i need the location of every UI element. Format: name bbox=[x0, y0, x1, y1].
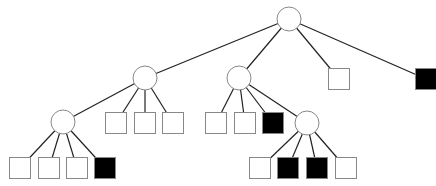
filled-square-node-A1d bbox=[95, 158, 116, 179]
filled-square-node-B4b bbox=[278, 158, 299, 179]
empty-square-node-B2 bbox=[235, 113, 256, 134]
empty-square-node-A1b bbox=[39, 158, 60, 179]
diagram-background bbox=[0, 0, 436, 186]
circle-node-root bbox=[277, 7, 301, 31]
empty-square-node-B4a bbox=[250, 158, 271, 179]
filled-square-node-B4c bbox=[307, 158, 328, 179]
empty-square-node-A2 bbox=[106, 113, 127, 134]
empty-square-node-A1a bbox=[10, 158, 31, 179]
filled-square-node-D bbox=[416, 69, 436, 90]
empty-square-node-B4d bbox=[336, 158, 357, 179]
circle-node-A1 bbox=[51, 110, 75, 134]
circle-node-A bbox=[133, 66, 157, 90]
empty-square-node-B1 bbox=[206, 113, 227, 134]
empty-square-node-A3 bbox=[135, 113, 156, 134]
empty-square-node-C bbox=[329, 69, 350, 90]
circle-node-B bbox=[227, 66, 251, 90]
empty-square-node-A1c bbox=[67, 158, 88, 179]
circle-node-B4 bbox=[295, 111, 319, 135]
tree-diagram bbox=[0, 0, 436, 186]
filled-square-node-B3 bbox=[263, 113, 284, 134]
empty-square-node-A4 bbox=[163, 113, 184, 134]
